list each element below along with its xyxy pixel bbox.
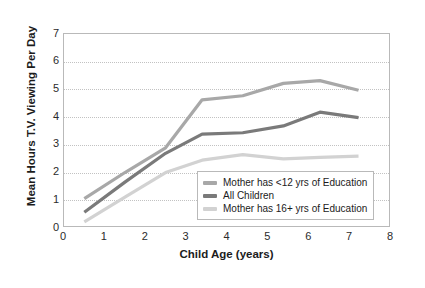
- y-tick-label-5: 5: [39, 83, 59, 94]
- y-axis-title: Mean Hours T.V. Viewing Per Day: [25, 21, 37, 211]
- x-tick-label-7: 7: [339, 231, 359, 242]
- legend-item-label: All Children: [223, 189, 274, 202]
- x-tick-label-6: 6: [298, 231, 318, 242]
- legend-swatch-icon-1: [203, 194, 217, 198]
- x-tick-label-0: 0: [53, 231, 73, 242]
- x-tick-label-5: 5: [257, 231, 277, 242]
- x-tick-label-2: 2: [135, 231, 155, 242]
- x-axis-title: Child Age (years): [63, 248, 390, 260]
- x-tick-label-8: 8: [380, 231, 400, 242]
- y-tick-label-1: 1: [39, 194, 59, 205]
- y-tick-label-6: 6: [39, 55, 59, 66]
- y-axis-tick-labels: 01234567: [38, 33, 59, 227]
- y-tick-label-2: 2: [39, 166, 59, 177]
- y-tick-label-4: 4: [39, 111, 59, 122]
- legend-swatch-icon-0: [203, 181, 217, 185]
- legend-item-label: Mother has 16+ yrs of Education: [223, 202, 367, 215]
- legend-item-0[interactable]: Mother has <12 yrs of Education: [203, 176, 367, 189]
- x-axis-tick-labels: 012345678: [63, 231, 390, 245]
- legend-item-2[interactable]: Mother has 16+ yrs of Education: [203, 202, 367, 215]
- chart-figure: 01234567 012345678 Mean Hours T.V. Viewi…: [0, 0, 425, 288]
- legend-item-1[interactable]: All Children: [203, 189, 367, 202]
- y-tick-label-7: 7: [39, 28, 59, 39]
- y-tick-label-3: 3: [39, 138, 59, 149]
- chart-legend: Mother has <12 yrs of EducationAll Child…: [197, 171, 374, 220]
- x-tick-label-1: 1: [94, 231, 114, 242]
- legend-swatch-icon-2: [203, 207, 217, 211]
- legend-item-label: Mother has <12 yrs of Education: [223, 176, 367, 189]
- x-tick-label-3: 3: [176, 231, 196, 242]
- x-tick-label-4: 4: [217, 231, 237, 242]
